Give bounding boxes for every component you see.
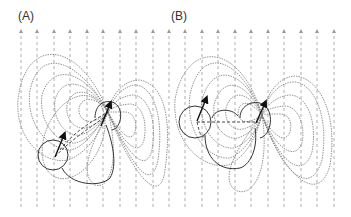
panel-b-contours [175,57,332,192]
panel-b-solid-contours [179,103,270,169]
panel-a-contours [4,54,167,204]
panel-a-dipole-arrow-1 [55,135,64,157]
field-lines [21,31,334,207]
diagram-canvas [0,0,351,217]
